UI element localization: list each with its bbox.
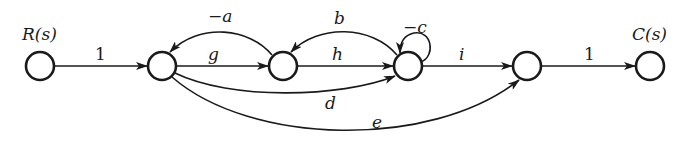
signal-flow-graph: R(s) C(s) 1 g −a h b −c i d e 1 [0,0,683,156]
node-4 [394,52,422,80]
edge-b [291,32,397,55]
input-label: R(s) [21,24,57,44]
gain-label-i: i [459,44,464,64]
gain-label-g: g [208,44,219,64]
node-5 [513,52,541,80]
gain-label-e: e [372,112,382,132]
gain-label-r-n2: 1 [95,44,106,64]
node-2 [148,52,176,80]
edge-e [172,77,519,130]
node-input [26,52,54,80]
edge-neg-a [170,32,272,55]
node-output [636,52,664,80]
gain-label-neg-c: −c [403,17,427,37]
gain-label-b: b [334,8,345,28]
output-label: C(s) [632,24,667,44]
node-3 [269,52,297,80]
gain-label-n5-c: 1 [584,44,595,64]
gain-label-neg-a: −a [208,6,232,26]
gain-label-h: h [332,44,343,64]
gain-label-d: d [325,93,336,113]
